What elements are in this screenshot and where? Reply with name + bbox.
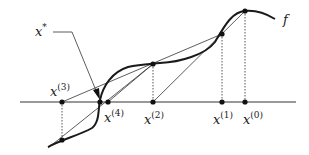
- secant-line-3-ext: [48, 64, 153, 148]
- function-name: f: [283, 12, 288, 27]
- iterate-index: (0): [250, 110, 263, 120]
- point-x0-axis: [242, 99, 247, 104]
- label-x0: x(0): [243, 111, 263, 126]
- label-function-f: f: [283, 13, 288, 26]
- iterate-index: (2): [151, 110, 164, 120]
- root-superscript: *: [42, 22, 47, 32]
- point-f-x1: [219, 31, 224, 36]
- point-f-x2: [150, 61, 155, 66]
- iterate-index: (3): [57, 82, 70, 92]
- label-x2: x(2): [144, 111, 164, 126]
- secant-line-0-1: [153, 11, 245, 102]
- label-root: x*: [35, 23, 47, 38]
- point-x4-axis: [105, 99, 110, 104]
- label-x3: x(3): [50, 83, 70, 98]
- iterate-index: (1): [220, 110, 233, 120]
- point-f-x0: [242, 8, 247, 13]
- secant-line-1-2: [62, 34, 222, 102]
- label-x4: x(4): [104, 109, 124, 124]
- point-x1-axis: [219, 99, 224, 104]
- iterate-index: (4): [111, 108, 124, 118]
- label-x1: x(1): [213, 111, 233, 126]
- function-curve-f: [48, 11, 275, 147]
- point-x2-axis: [150, 99, 155, 104]
- point-root-axis: [97, 99, 102, 104]
- secant-method-diagram: f x* x(3) x(4) x(2) x(1) x(0): [0, 0, 309, 155]
- point-f-x3: [59, 137, 64, 142]
- root-pointer-arrowhead: [93, 88, 100, 100]
- point-x3-axis: [59, 99, 64, 104]
